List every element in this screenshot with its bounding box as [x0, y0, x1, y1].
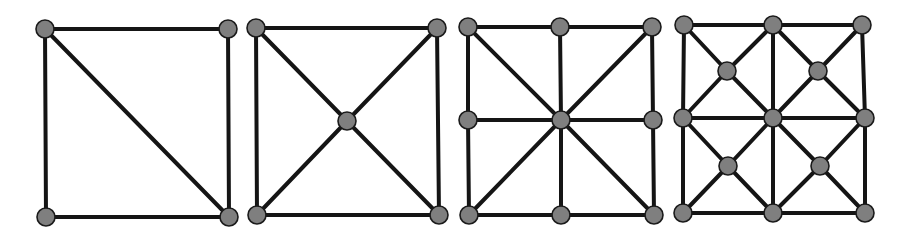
graph-edge — [347, 121, 439, 215]
graph-node — [674, 204, 692, 222]
graph-node — [247, 19, 265, 37]
graph-node — [719, 157, 737, 175]
graph-edge — [727, 71, 773, 118]
graph-edge — [820, 118, 865, 166]
graph-node — [718, 62, 736, 80]
graph-node — [219, 20, 237, 38]
graph-node — [764, 204, 782, 222]
graph-edge — [228, 29, 229, 217]
graph-edge — [728, 118, 773, 166]
graph-node — [552, 111, 570, 129]
graph-node — [428, 19, 446, 37]
graph-edge — [653, 120, 654, 215]
graph-node — [811, 157, 829, 175]
graph-node — [551, 18, 569, 36]
graph-edge — [468, 120, 469, 215]
graph-edge — [256, 28, 347, 121]
graph-panel-3 — [459, 18, 663, 224]
graph-node — [764, 16, 782, 34]
graph-node — [675, 16, 693, 34]
graph-edge — [818, 71, 865, 118]
graph-node — [459, 18, 477, 36]
graph-panel-2 — [247, 19, 448, 224]
graph-node — [856, 109, 874, 127]
graph-node — [643, 18, 661, 36]
graph-edge — [773, 166, 820, 213]
graph-node — [853, 16, 871, 34]
graph-node — [552, 206, 570, 224]
graph-node — [430, 206, 448, 224]
graph-node — [645, 206, 663, 224]
graph-node — [644, 111, 662, 129]
mesh-refinement-diagram — [0, 0, 912, 237]
edges — [45, 29, 229, 217]
graph-node — [338, 112, 356, 130]
graph-node — [809, 62, 827, 80]
graph-node — [248, 206, 266, 224]
graph-edge — [683, 118, 728, 166]
graph-panel-4 — [674, 16, 874, 222]
graph-edge — [257, 121, 347, 215]
graph-edge — [468, 27, 561, 120]
graph-node — [764, 109, 782, 127]
graph-node — [36, 20, 54, 38]
graph-edge — [45, 29, 46, 217]
graph-edge — [561, 27, 652, 120]
graph-edge — [347, 28, 437, 121]
graph-edge — [652, 27, 653, 120]
graph-edge — [560, 27, 561, 120]
graph-edge — [683, 25, 684, 118]
graph-edge — [45, 29, 229, 217]
graph-panel-1 — [36, 20, 238, 226]
graph-edge — [561, 120, 654, 215]
graph-edge — [862, 25, 865, 118]
graph-edge — [773, 118, 820, 166]
graph-edge — [256, 28, 257, 215]
graph-node — [674, 109, 692, 127]
graph-edge — [469, 120, 561, 215]
graph-node — [856, 204, 874, 222]
graph-node — [459, 111, 477, 129]
graph-node — [37, 208, 55, 226]
graph-edge — [437, 28, 439, 215]
graph-node — [460, 206, 478, 224]
graph-node — [220, 208, 238, 226]
